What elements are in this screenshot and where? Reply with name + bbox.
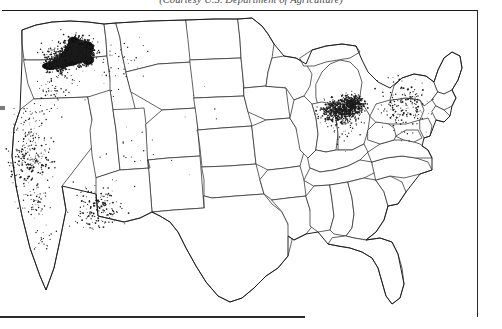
map-figure: (Courtesy U.S. Department of Agriculture…: [0, 0, 502, 329]
us-dot-density-map: [0, 0, 502, 329]
us-map-svg: [0, 0, 502, 329]
